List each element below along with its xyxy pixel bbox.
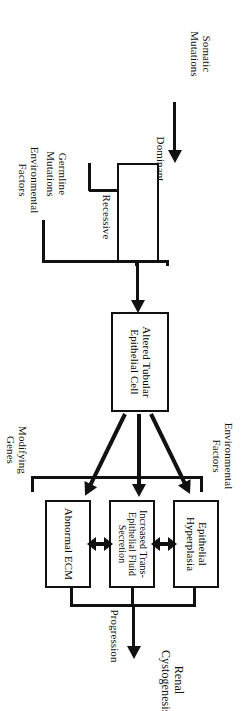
line-bracket-stub-bottom [70, 588, 73, 607]
arrow-shaft-somatic-to-dominant [173, 102, 176, 150]
line-environmental-run [42, 220, 45, 263]
label-modifying-genes: Modifying Genes [5, 404, 29, 496]
rotated-figure-stage: Somatic Mutations Dominant Recessive Ger… [0, 0, 241, 711]
node-abnormal-ecm-label: Abnormal ECM [62, 506, 74, 582]
label-progression: Progression [109, 604, 121, 668]
node-increased-fluid-secretion-label: Increased Trans-Epithelial Fluid Secreti… [116, 502, 148, 586]
renal-cystogenesis-flowchart: Somatic Mutations Dominant Recessive Ger… [0, 0, 241, 711]
node-mutation-box [117, 163, 159, 263]
double-arrow-secretion-ecm [87, 536, 113, 552]
line-environmental-riser [42, 260, 138, 263]
double-arrow-hyperplasia-secretion [151, 536, 177, 552]
double-arrow-head-right-1 [151, 537, 160, 551]
line-bracket-stub-top [193, 588, 196, 607]
arrow-altered-cell-to-epithelial-hyperplasia [149, 413, 187, 485]
arrow-head-to-epithelial-hyperplasia [178, 479, 196, 497]
double-arrow-head-right-2 [87, 537, 96, 551]
node-epithelial-hyperplasia-label: Epithelial Hyperplasia [184, 502, 208, 586]
arrow-head-progression [127, 646, 141, 659]
arrow-head-to-abnormal-ecm [79, 481, 97, 499]
label-environmental-factors-top: Environmental Factors [211, 404, 235, 508]
label-environmental-factors-bottom: Environmental Factors [17, 128, 41, 232]
node-abnormal-ecm: Abnormal ECM [45, 500, 91, 588]
line-modifier-stub-top [200, 476, 203, 492]
stub-germline-to-mutation-box [88, 163, 91, 191]
line-mutation-box-out-2 [166, 263, 169, 266]
node-altered-cell-label: Altered Tubular Epithelial Cell [128, 314, 152, 410]
line-modifier-stub-bottom [31, 476, 34, 492]
node-altered-tubular-epithelial-cell: Altered Tubular Epithelial Cell [111, 312, 169, 412]
label-renal-cystogenesis: Renal Cystogenesis [159, 650, 185, 710]
label-germline-mutations: Germline Mutations [45, 128, 69, 220]
stub-germline-riser [89, 189, 117, 192]
arrow-shaft-to-altered-cell [136, 262, 139, 300]
label-somatic-mutations: Somatic Mutations [189, 8, 213, 100]
arrow-head-somatic-to-dominant [168, 150, 182, 163]
line-modifier-spine [31, 476, 203, 479]
line-bracket-vertical [137, 260, 169, 263]
node-increased-fluid-secretion: Increased Trans-Epithelial Fluid Secreti… [109, 500, 155, 588]
arrow-head-to-fluid-secretion [133, 484, 147, 497]
label-recessive: Recessive [101, 182, 113, 252]
arrow-shaft-progression [132, 604, 135, 648]
node-epithelial-hyperplasia: Epithelial Hyperplasia [173, 500, 219, 588]
